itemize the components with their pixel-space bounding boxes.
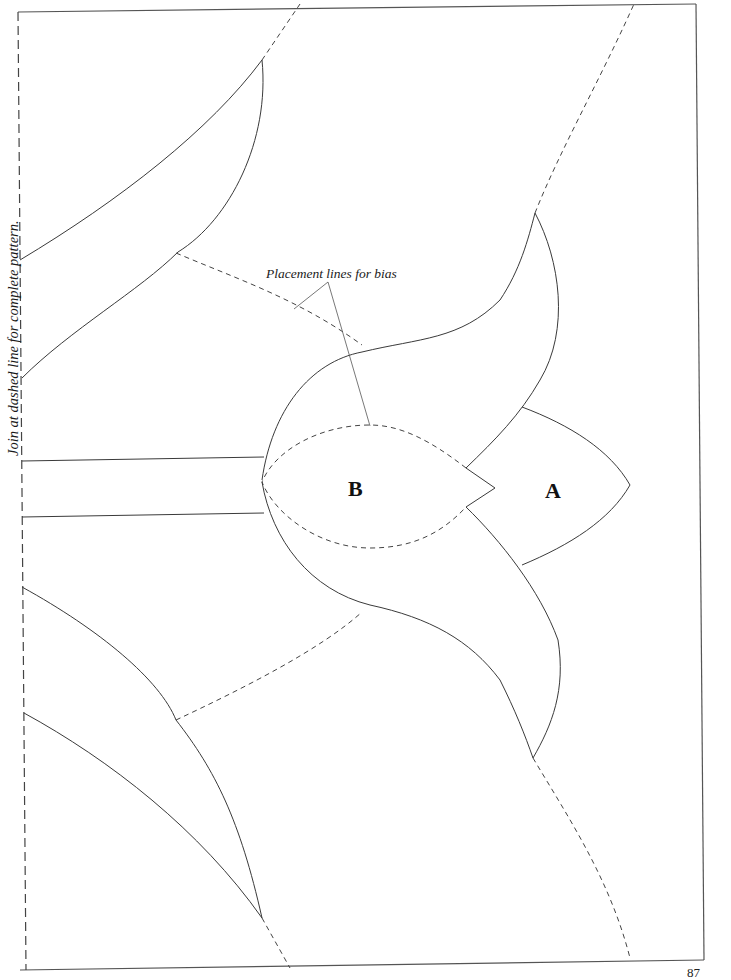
stem-strip: [22, 457, 264, 517]
lower-petal: [262, 482, 560, 758]
lower-left-leaf: [22, 587, 290, 968]
upper-left-leaf: [20, 4, 300, 378]
page-number: 87: [687, 965, 701, 980]
lower-stem-dashed: [533, 758, 630, 958]
upper-stem-dashed: [535, 4, 634, 213]
piece-A-outline: [522, 407, 630, 565]
join-dashed-line: [18, 12, 26, 970]
piece-B-label: B: [348, 476, 363, 501]
placement-callout-label: Placement lines for bias: [265, 266, 397, 281]
pattern-page: Placement lines for bias B A Join at das…: [0, 0, 731, 980]
placement-line-lower: [176, 612, 362, 720]
upper-petal: [262, 213, 559, 480]
pattern-drawing: Placement lines for bias B A Join at das…: [0, 0, 731, 980]
piece-A-label: A: [545, 478, 561, 503]
placement-callout-leaders: [294, 282, 370, 426]
join-instruction-label: Join at dashed line for complete pattern…: [5, 220, 21, 456]
piece-B-outline: [262, 425, 495, 548]
